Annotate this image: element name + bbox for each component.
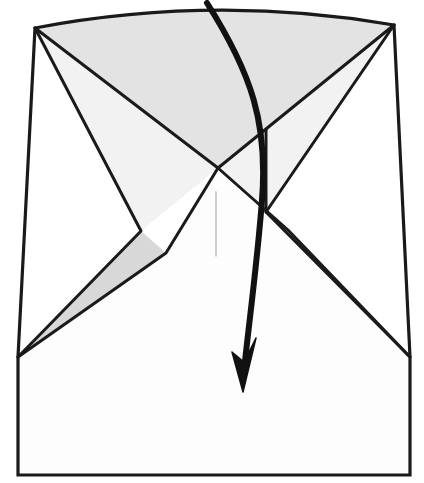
origami-diagram: Origami folding step diagram Symmetric p… bbox=[0, 0, 424, 483]
origami-figure-svg: Origami folding step diagram Symmetric p… bbox=[0, 0, 424, 483]
